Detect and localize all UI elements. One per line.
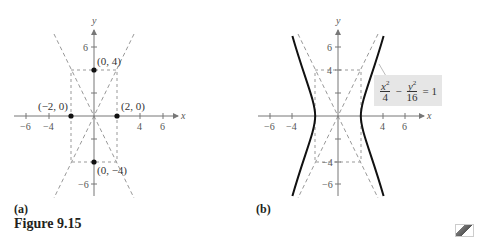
panel-b-ytick: −6 [322,179,333,190]
equation-rhs: = 1 [423,85,437,97]
point-neg2-0 [68,113,73,118]
panel-a-xtick: −6 [20,121,31,132]
panel-b-ytick: 4 [327,65,332,76]
panel-a-ytick: 6 [83,42,88,53]
equation-term-y: y2 16 [407,78,418,104]
figure-canvas: x y −6 −4 4 6 6 −6 (0, 4) (−2, 0) (2, 0)… [0,0,477,252]
panel-b-graph [258,30,424,198]
panel-a-graph [14,30,178,198]
panel-b-y-label: y [335,15,341,26]
panel-b-xtick: 4 [380,121,385,132]
panel-a-x-label: x [180,110,186,121]
panel-b-xtick: 6 [402,121,407,132]
panel-a-y-label: y [91,15,97,26]
panel-a-ytick: −6 [78,179,89,190]
panel-b-xtick: −4 [286,121,297,132]
panel-b-ytick: 6 [327,42,332,53]
panel-b-ytick: −4 [322,157,333,168]
panel-b-label: (b) [256,202,271,217]
panel-a-xtick: 6 [160,121,165,132]
point-0-neg4 [91,159,96,164]
equation-label: x2 4 − y2 16 = 1 [374,75,442,106]
equation-operator: − [395,85,401,97]
panel-a-label: (a) [14,202,28,217]
point-label: (2, 0) [121,100,145,113]
panel-b-xtick: −6 [264,121,275,132]
point-label: (0, −4) [97,164,127,177]
panel-a-xtick: 4 [137,121,142,132]
panel-b-x-label: x [426,110,432,121]
equation-term-x: x2 4 [380,78,390,104]
point-label: (−2, 0) [38,100,68,113]
calculator-icon[interactable] [455,224,474,237]
point-0-4 [91,67,96,72]
point-label: (0, 4) [97,55,121,68]
figure-caption: Figure 9.15 [14,216,81,232]
panel-a-xtick: −4 [43,121,54,132]
point-2-0 [114,113,119,118]
